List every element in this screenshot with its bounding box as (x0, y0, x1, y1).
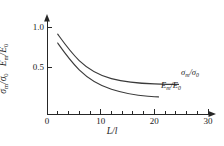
series-label-e-num-sub: m (166, 85, 170, 91)
x-axis-title-denominator: l (115, 126, 118, 136)
y-axis-title-e-den-sub: 0 (2, 44, 9, 47)
curve-sigma-ratio (58, 34, 179, 84)
series-label-e-den-sub: 0 (178, 85, 181, 91)
y-axis-title-sigma-den-sub: 0 (2, 73, 9, 76)
x-tick-label-20: 20 (150, 117, 159, 126)
y-axis-title-e-num-sub: m (2, 55, 9, 60)
series-label-sigma-den-sub: 0 (196, 72, 199, 78)
x-tick-label-10: 10 (96, 117, 105, 126)
x-axis-title: L/l (107, 127, 118, 137)
y-axis-title-sigma-num-sub: m (2, 84, 9, 89)
y-axis-arrow-icon (44, 14, 50, 22)
y-axis-title-sigma-den: σ (0, 77, 8, 82)
y-axis-title: σm/σ0 Em/E0 (0, 44, 9, 94)
curve-e-ratio (58, 43, 159, 97)
y-tick-label-1.0: 1.0 (28, 23, 44, 32)
x-tick-label-30: 30 (204, 117, 213, 126)
series-label-sigma-ratio: σm/σ0 (181, 68, 199, 77)
y-axis-title-sigma-num: σ (0, 89, 8, 94)
y-axis-title-e-num: E (0, 61, 8, 67)
y-tick-label-0.5: 0.5 (28, 63, 44, 72)
chart-figure: 0 10 20 30 1.0 0.5 L/l σm/σ0 Em/E0 σm/σ0… (0, 0, 224, 146)
series-label-e-ratio: Em/E0 (161, 81, 181, 90)
y-axis-title-gap (0, 66, 8, 73)
x-tick-label-0: 0 (45, 117, 50, 126)
series-label-sigma-num-sub: m (185, 72, 189, 78)
y-axis-title-e-den: E (0, 47, 8, 53)
